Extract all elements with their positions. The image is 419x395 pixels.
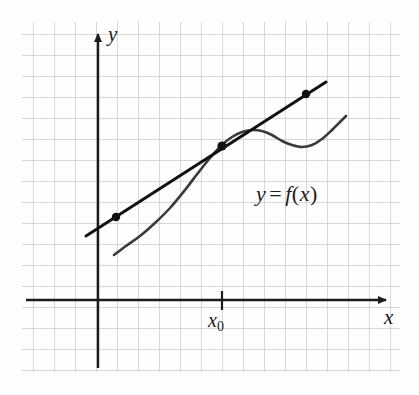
x0-label-base: x [208,309,217,331]
equation-x: x [300,181,310,206]
x0-label: x0 [208,310,224,334]
graph-canvas [0,0,419,395]
function-equation-label: y=f(x) [256,183,318,205]
x0-label-subscript: 0 [217,319,224,334]
x-axis-label: x [384,307,393,328]
math-figure: y x x0 y=f(x) [0,0,419,395]
y-axis-label: y [108,24,117,45]
equation-f: f [285,181,292,206]
equation-y: y [256,181,266,206]
left-point [112,213,120,221]
right-point [302,90,310,98]
equation-open-paren: ( [292,181,300,206]
tangency-point [217,141,226,150]
equation-equals: = [269,181,282,206]
equation-close-paren: ) [310,181,318,206]
